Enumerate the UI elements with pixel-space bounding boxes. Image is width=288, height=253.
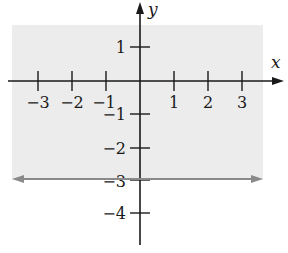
x-axis-arrow-icon [272, 77, 284, 85]
y-axis-label: y [147, 0, 158, 19]
x-tick-label: 1 [169, 93, 179, 112]
x-tick-label: 2 [203, 93, 213, 112]
x-tick-label: 3 [237, 93, 247, 112]
y-tick-label: 1 [116, 38, 126, 57]
y-tick-label: −3 [102, 172, 126, 191]
inequality-graph: x y −3 −2 −1 1 2 3 1 −1 −2 −3 −4 [0, 0, 288, 253]
y-axis-arrow-icon [136, 2, 144, 14]
y-tick-label: −1 [102, 105, 126, 124]
x-tick-label: −3 [26, 93, 50, 112]
x-axis-label: x [271, 52, 281, 72]
x-tick-label: −2 [60, 93, 84, 112]
y-tick-label: −4 [102, 204, 126, 223]
y-tick-label: −2 [102, 139, 126, 158]
